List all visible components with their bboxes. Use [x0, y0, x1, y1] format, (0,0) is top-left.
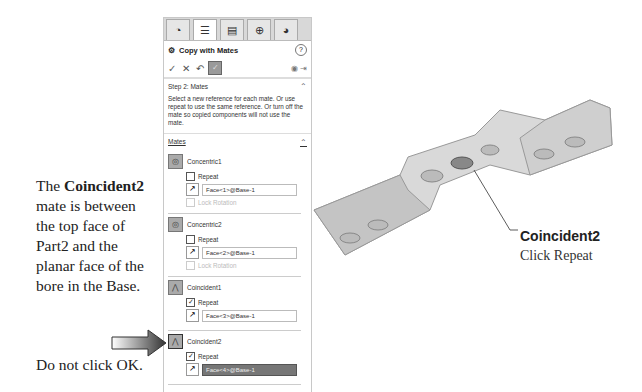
checkbox-box[interactable] — [186, 172, 195, 181]
face-reference-field[interactable]: Face<1>@Base-1 — [202, 184, 297, 196]
panel-title: Copy with Mates — [179, 46, 238, 55]
ok-check-icon[interactable]: ✓ — [168, 63, 176, 74]
help-icon[interactable]: ? — [295, 44, 307, 56]
concentric-mate-icon: ◎ — [168, 154, 183, 169]
repeat-checkbox[interactable]: Repeat — [186, 171, 297, 181]
repeat-checkbox[interactable]: ✓Repeat — [186, 297, 297, 307]
lock-label: Lock Rotation — [198, 199, 237, 206]
repeat-label: Repeat — [198, 236, 218, 243]
feature-manager-tab[interactable]: ◔ — [166, 19, 190, 40]
checkbox-box[interactable] — [186, 235, 195, 244]
face-select-icon: ↗ — [186, 363, 199, 376]
mate-item: ◎Concentric1 Repeat ↗Face<1>@Base-1 Lock… — [168, 151, 301, 214]
display-manager-tab[interactable]: ◕ — [274, 19, 298, 40]
property-manager-panel: ◔ ☰ ▤ ⊕ ◕ ⚙ Copy with Mates ? ✓ ✕ ↶ ✓ ◉ … — [163, 17, 312, 392]
copy-mates-icon: ⚙ — [168, 46, 175, 55]
face-select-icon: ↗ — [186, 183, 199, 196]
step-label: Step 2: Mates — [168, 83, 208, 90]
manager-tabs: ◔ ☰ ▤ ⊕ ◕ — [164, 18, 311, 41]
pushpin-check-icon[interactable]: ✓ — [208, 61, 222, 75]
face-reference-field[interactable]: Face<4>@Base-1 — [202, 364, 297, 376]
repeat-checkbox[interactable]: ✓Repeat — [186, 351, 297, 361]
face-select-icon: ↗ — [186, 246, 199, 259]
undo-icon[interactable]: ↶ — [196, 63, 204, 74]
face-reference-field[interactable]: Face<2>@Base-1 — [202, 247, 297, 259]
action-row: ✓ ✕ ↶ ✓ ◉ ⇥ — [164, 59, 311, 78]
pointer-arrow-icon — [110, 329, 170, 357]
mate-name: Coincident2 — [187, 338, 221, 345]
concentric-mate-icon: ◎ — [168, 217, 183, 232]
property-manager-tab[interactable]: ☰ — [193, 19, 217, 40]
face-select-icon: ↗ — [186, 309, 199, 322]
mates-section-header[interactable]: Mates ⌃ — [164, 133, 311, 151]
instruction-paragraph: The Coincident2 mate is between the top … — [36, 176, 156, 296]
step-section-header[interactable]: Step 2: Mates ⌃ — [164, 78, 311, 93]
repeat-label: Repeat — [198, 299, 218, 306]
cancel-x-icon[interactable]: ✕ — [182, 63, 190, 74]
mate-item-selected: ⋀Coincident2 ✓Repeat ↗Face<4>@Base-1 — [168, 331, 301, 385]
checkbox-box[interactable]: ✓ — [186, 352, 195, 361]
configuration-manager-tab[interactable]: ▤ — [220, 19, 244, 40]
part-3d-model — [300, 60, 642, 280]
face-reference-field[interactable]: Face<3>@Base-1 — [202, 310, 297, 322]
callout-subtitle: Click Repeat — [520, 248, 593, 264]
panel-title-row: ⚙ Copy with Mates ? — [164, 41, 311, 59]
lock-rotation-checkbox: Lock Rotation — [186, 261, 297, 270]
mate-item: ◎Concentric2 Repeat ↗Face<2>@Base-1 Lock… — [168, 214, 301, 277]
dimxpert-tab[interactable]: ⊕ — [247, 19, 271, 40]
lock-rotation-checkbox: Lock Rotation — [186, 198, 297, 207]
step-message: Select a new reference for each mate. Or… — [164, 93, 311, 133]
text-rest: mate is between the top face of Part2 an… — [36, 197, 144, 294]
coincident-mate-icon: ⋀ — [168, 280, 183, 295]
mate-name: Coincident1 — [187, 284, 221, 291]
callout-title: Coincident2 — [520, 228, 600, 244]
checkbox-box — [186, 198, 195, 207]
do-not-click-note: Do not click OK. — [36, 356, 143, 374]
repeat-label: Repeat — [198, 353, 218, 360]
mate-item: ⋀Coincident1 ✓Repeat ↗Face<3>@Base-1 — [168, 277, 301, 331]
mate-name-bold: Coincident2 — [64, 177, 144, 194]
lock-label: Lock Rotation — [198, 262, 237, 269]
text-prefix: The — [36, 177, 64, 194]
checkbox-box[interactable]: ✓ — [186, 298, 195, 307]
mate-name: Concentric2 — [187, 221, 222, 228]
repeat-label: Repeat — [198, 173, 218, 180]
checkbox-box — [186, 261, 195, 270]
coincident-mate-icon: ⋀ — [168, 334, 183, 349]
repeat-checkbox[interactable]: Repeat — [186, 234, 297, 244]
mates-label: Mates — [168, 138, 186, 147]
mate-name: Concentric1 — [187, 158, 222, 165]
